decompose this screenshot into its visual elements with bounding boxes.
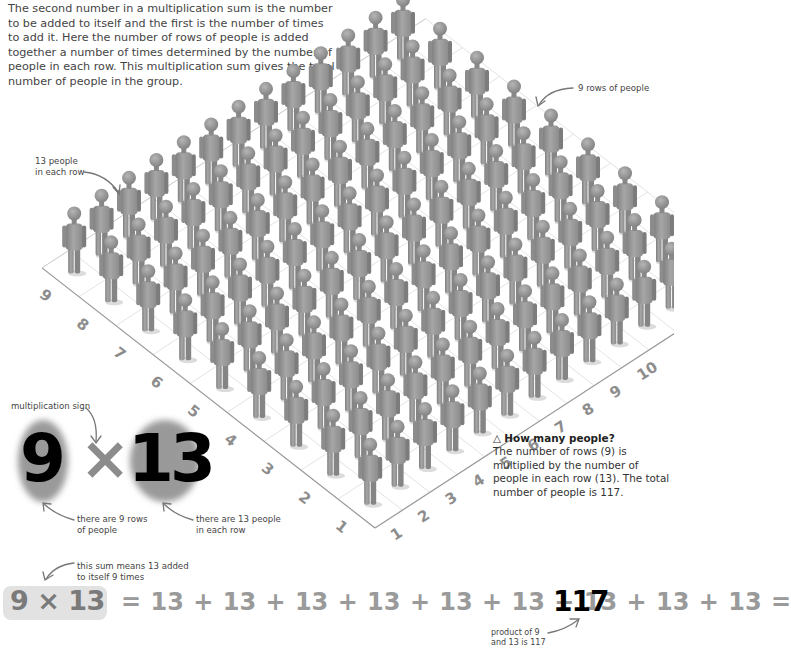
arrow-thirteen-icon	[164, 504, 193, 520]
arrow-product-icon	[548, 620, 578, 633]
arrow-people-per-row-icon	[84, 172, 119, 193]
arrow-nine-icon	[44, 504, 74, 520]
arrow-rows-icon	[539, 88, 573, 105]
